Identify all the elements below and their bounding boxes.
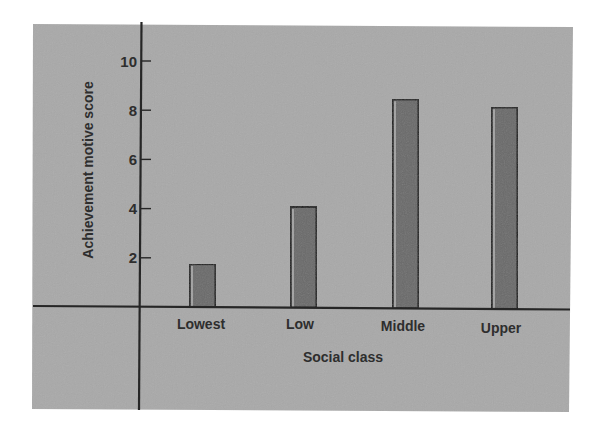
bar-low bbox=[291, 207, 317, 308]
x-category-label: Lowest bbox=[177, 316, 226, 332]
y-axis-title: Achievement motive score bbox=[80, 81, 96, 259]
bar-lowest bbox=[190, 264, 216, 307]
x-category-label: Upper bbox=[481, 320, 522, 336]
x-category-label: Low bbox=[286, 316, 314, 332]
bar-middle bbox=[393, 99, 419, 308]
y-tick-label: 10 bbox=[120, 53, 137, 70]
x-category-label: Middle bbox=[381, 318, 426, 334]
y-tick-label: 4 bbox=[129, 200, 138, 217]
bar bbox=[190, 264, 216, 307]
bar bbox=[393, 99, 419, 308]
x-axis-title: Social class bbox=[303, 349, 383, 365]
y-tick-label: 6 bbox=[129, 151, 137, 168]
y-tick-label: 8 bbox=[129, 102, 137, 119]
bar-upper bbox=[492, 107, 518, 309]
bar bbox=[492, 107, 518, 309]
bar-chart: 246810 LowestLowMiddleUpper Social class… bbox=[0, 0, 607, 436]
bar bbox=[291, 207, 317, 308]
y-tick-label: 2 bbox=[129, 249, 137, 266]
